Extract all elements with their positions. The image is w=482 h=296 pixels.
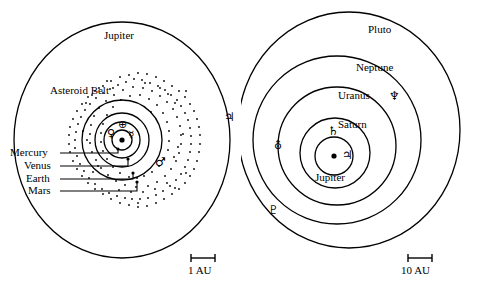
leader-dot-mars [135,180,138,183]
symbol-mars: ♂ [155,156,166,168]
leader-line-earth [60,172,133,179]
label-venus: Venus [24,160,51,171]
symbol-pluto: ♇ [268,204,279,216]
label-neptune: Neptune [356,62,393,73]
leader-dot-venus [126,157,129,160]
leader-line-venus [60,158,128,166]
leader-dot-earth [131,171,134,174]
symbol-venus: ♀ [107,128,115,139]
leader-dot-mercury [116,147,119,150]
scale-label-1au: 1 AU [188,265,212,276]
label-pluto: Pluto [368,24,391,35]
sun-marker-outer [331,153,336,158]
label-saturn: Saturn [338,119,367,130]
label-mars: Mars [28,185,51,196]
label-mercury: Mercury [10,147,48,158]
symbol-jupiter-inner: ♃ [224,111,235,123]
label-uranus: Uranus [338,90,370,101]
label-jupiter-outer: Jupiter [315,172,345,183]
scale-label-10au: 10 AU [401,265,430,276]
sun-marker [119,137,124,142]
solar-system-figure: Jupiter Asteroid Belt Mercury Venus Eart… [0,0,482,296]
symbol-neptune: ♆ [389,90,400,102]
inner-solar-system-panel: Jupiter Asteroid Belt Mercury Venus Eart… [0,0,241,296]
label-earth: Earth [26,173,50,184]
outer-solar-system-panel: Pluto Neptune Uranus Saturn Jupiter ♃ ♄ … [241,0,482,296]
label-jupiter-inner: Jupiter [104,30,134,41]
symbol-mercury: ☿ [128,130,134,140]
leader-line-mars [60,181,137,191]
scale-bar-10au [408,254,432,262]
symbol-uranus: ⛢ [274,140,282,151]
symbol-earth: ⊕ [118,119,127,130]
symbol-saturn: ♄ [328,125,339,137]
scale-bar-1au [191,254,215,262]
label-asteroid-belt: Asteroid Belt [50,85,109,96]
symbol-jupiter-outer: ♃ [342,149,353,161]
